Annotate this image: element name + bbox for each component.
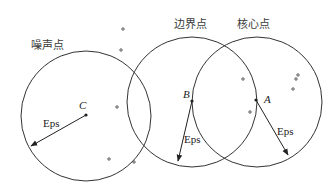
eps-label-b: Eps (184, 133, 201, 145)
data-point (116, 106, 118, 108)
border-point-label: 边界点 (174, 18, 207, 31)
point-b-label: B (183, 88, 190, 100)
point-c-label: C (79, 99, 87, 111)
eps-arrow-b (178, 101, 192, 161)
data-point (108, 158, 110, 160)
data-point (120, 49, 122, 51)
eps-label-c: Eps (43, 117, 60, 129)
eps-label-a: Eps (277, 125, 294, 137)
data-point (122, 28, 124, 30)
data-point (292, 88, 294, 90)
data-point (249, 111, 251, 113)
point-a-label: A (263, 93, 271, 105)
data-point (295, 78, 297, 80)
dbscan-diagram: 噪声点 边界点 核心点 C Eps B Eps A Eps (0, 0, 336, 194)
data-point (297, 74, 299, 76)
data-point (242, 78, 244, 80)
core-point-label: 核心点 (237, 17, 270, 31)
noise-point-label: 噪声点 (31, 38, 64, 52)
data-point (133, 161, 135, 163)
